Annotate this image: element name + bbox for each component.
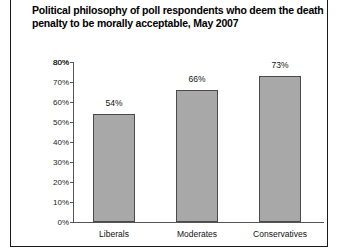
category-label-moderates: Moderates: [152, 229, 242, 239]
y-tick-label: 30%: [35, 158, 74, 167]
y-tick-mark: [70, 62, 74, 63]
y-tick-label: 60%: [35, 98, 74, 107]
y-tick-mark: [70, 142, 74, 143]
y-tick-label: 0%: [35, 218, 74, 227]
bar-value-moderates: 66%: [167, 74, 227, 84]
bar-value-conservatives: 73%: [250, 60, 310, 70]
y-tick-label: 40%: [35, 138, 74, 147]
y-tick-label: 50%: [35, 118, 74, 127]
y-tick-label: 70%: [35, 78, 74, 87]
bar-moderates[interactable]: [176, 90, 218, 222]
y-tick-mark: [70, 102, 74, 103]
chart-title: Political philosophy of poll respondents…: [32, 4, 332, 30]
y-tick-label: 20%: [35, 178, 74, 187]
y-tick-mark: [70, 222, 74, 223]
bar-liberals[interactable]: [93, 114, 135, 222]
y-tick-mark: [70, 202, 74, 203]
bar-value-liberals: 54%: [84, 98, 144, 108]
category-label-liberals: Liberals: [69, 229, 159, 239]
y-tick-mark: [70, 82, 74, 83]
bar-conservatives[interactable]: [259, 76, 301, 222]
y-tick-label: 10%: [35, 198, 74, 207]
category-label-conservatives: Conservatives: [235, 229, 325, 239]
chart-frame: Political philosophy of poll respondents…: [10, 0, 328, 247]
y-tick-mark: [70, 162, 74, 163]
y-tick-mark: [70, 122, 74, 123]
y-tick-mark: [70, 182, 74, 183]
y-tick-label: 80%: [35, 58, 74, 67]
plot-area: 0% 80% 80% 70% 60% 50% 40% 30% 20% 10% 0…: [73, 62, 324, 223]
